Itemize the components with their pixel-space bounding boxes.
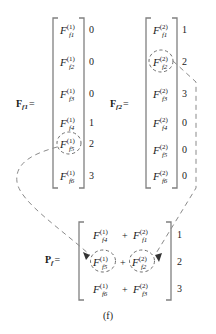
matrix-f1-brackets <box>53 18 84 188</box>
matrix-p-row2-plus: + <box>120 258 126 268</box>
matrix-f2-equals: = <box>123 98 129 109</box>
matrix-p-index-2: 2 <box>177 257 182 267</box>
highlight-circles <box>57 50 173 272</box>
matrix-p-equals: = <box>54 254 60 265</box>
matrix-f2-brackets <box>146 18 177 188</box>
matrix-f1-index-5: 2 <box>89 139 94 149</box>
matrix-f1-label-sub: f1 <box>22 103 28 111</box>
matrix-f2-index-3: 3 <box>182 89 187 99</box>
matrix-f2-label: Ff2= <box>110 99 129 111</box>
matrix-f1-index-6: 3 <box>89 171 94 181</box>
matrix-f2-index-6: 0 <box>182 171 187 181</box>
matrix-p-row3-plus: + <box>122 285 128 295</box>
matrix-f1-entry-3: F(1)f3 <box>60 88 74 103</box>
matrix-f1-index-3: 0 <box>89 89 94 99</box>
matrix-f1-equals: = <box>29 98 35 109</box>
matrix-f1-entry-4: F(1)f4 <box>60 117 74 132</box>
figure-line-art <box>0 0 216 334</box>
matrix-f1-entry-2: F(1)f2 <box>60 56 74 71</box>
matrix-f2-label-sub: f2 <box>116 103 122 111</box>
matrix-p-row2-right: F(2)f2 <box>132 256 146 271</box>
matrix-f1-entry-1: F(1)f1 <box>60 24 74 39</box>
matrix-p-row3-left: F(1)f6 <box>93 283 107 298</box>
matrix-f2-entry-2: F(2)f2 <box>153 56 167 71</box>
matrix-f2-entry-4: F(2)f4 <box>153 117 167 132</box>
matrix-f2-index-1: 1 <box>182 25 187 35</box>
matrix-p-row3-right: F(2)f3 <box>133 283 147 298</box>
matrix-f1-index-1: 0 <box>89 25 94 35</box>
matrix-f2-entry-1: F(2)f1 <box>153 24 167 39</box>
matrix-f2-index-4: 0 <box>182 118 187 128</box>
matrix-f2-entry-6: F(2)f6 <box>153 170 167 185</box>
matrix-f1-entry-5: F(1)f5 <box>60 138 74 153</box>
matrix-f2-index-2: 2 <box>182 57 187 67</box>
matrix-f1-index-4: 1 <box>89 118 94 128</box>
matrix-f1-entry-6: F(1)f6 <box>60 170 74 185</box>
matrix-p-label: Pf= <box>45 255 60 267</box>
connector-left <box>17 147 90 255</box>
matrix-f2-index-5: 0 <box>182 145 187 155</box>
matrix-f1-label: Ff1= <box>16 99 35 111</box>
figure-caption: (f) <box>0 311 216 321</box>
matrix-f2-entry-5: F(2)f5 <box>153 144 167 159</box>
connector-right-arrowhead <box>155 253 162 262</box>
matrix-p-index-1: 1 <box>177 230 182 240</box>
figure-panel-f: Ff1= F(1)f1 0 F(1)f2 0 F(1)f3 0 F(1)f4 1… <box>0 0 216 334</box>
connector-left-arrowhead <box>83 252 90 260</box>
matrix-p-row1-right: F(2)f1 <box>133 229 147 244</box>
matrix-f1-index-2: 0 <box>89 57 94 67</box>
matrix-p-row2-left: F(1)f5 <box>93 256 107 271</box>
matrix-p-index-3: 3 <box>177 284 182 294</box>
matrix-p-row1-left: F(1)f4 <box>93 229 107 244</box>
matrix-f2-entry-3: F(2)f3 <box>153 88 167 103</box>
matrix-p-row1-plus: + <box>122 231 128 241</box>
